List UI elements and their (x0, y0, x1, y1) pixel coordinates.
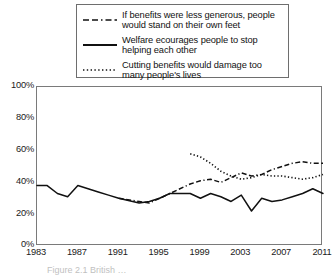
x-tick-label: 1991 (98, 247, 138, 257)
y-tick-label: 80% (0, 113, 34, 122)
x-tick-label: 2003 (220, 247, 260, 257)
y-axis: 100%80%60%40%20%0% (0, 0, 34, 277)
x-tick-label: 1983 (16, 247, 56, 257)
figure-caption: Figure 2.1 British … (47, 265, 127, 275)
dotted-line-icon (83, 64, 117, 76)
y-tick-label: 60% (0, 145, 34, 154)
x-tick-label: 2007 (261, 247, 301, 257)
x-tick-label: 1995 (139, 247, 179, 257)
chart-legend: If benefits were less generous, people w… (76, 4, 289, 78)
dash-dot-line-icon (83, 14, 117, 26)
legend-label-dotted: Cutting benefits would damage too many p… (122, 60, 262, 81)
y-tick-label: 20% (0, 209, 34, 218)
legend-label-dash-dot: If benefits were less generous, people w… (122, 10, 275, 31)
solid-line-icon (83, 39, 117, 51)
legend-item-dash-dot: If benefits were less generous, people w… (83, 10, 284, 31)
chart-figure: If benefits were less generous, people w… (0, 0, 335, 277)
x-tick-label: 1999 (179, 247, 219, 257)
legend-item-dotted: Cutting benefits would damage too many p… (83, 60, 284, 81)
plot-area (36, 86, 322, 245)
x-tick-label: 1987 (57, 247, 97, 257)
y-tick-label: 100% (0, 81, 34, 90)
y-tick-label: 40% (0, 177, 34, 186)
x-tick-label: 2011 (302, 247, 335, 257)
series-container (37, 87, 323, 246)
x-axis: 19831987199119951999200320072011 (0, 247, 335, 261)
legend-item-solid: Welfare ecourages people to stop helping… (83, 35, 284, 56)
series-line-dotted (190, 154, 323, 179)
legend-label-solid: Welfare ecourages people to stop helping… (122, 35, 258, 56)
